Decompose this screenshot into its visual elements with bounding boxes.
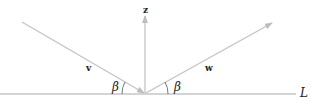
label-v: v	[85, 63, 92, 73]
label-beta-right: β	[173, 80, 181, 94]
reflection-diagram: z v w β β L	[0, 0, 314, 102]
vector-v	[22, 22, 144, 93]
label-beta-left: β	[111, 80, 119, 94]
angle-arc-right	[165, 82, 168, 94]
label-z: z	[143, 5, 148, 15]
angle-arc-left	[122, 82, 125, 94]
label-w: w	[204, 63, 213, 73]
label-L: L	[299, 86, 308, 100]
diagram-svg: z v w β β L	[0, 0, 314, 102]
